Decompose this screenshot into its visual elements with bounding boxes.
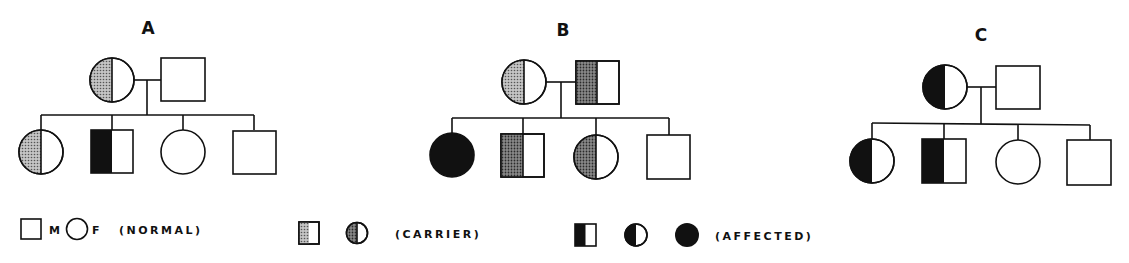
son-affected-symbol	[922, 139, 966, 183]
pedigree-title-a: A	[141, 18, 155, 38]
legend-normal-male-symbol	[21, 219, 41, 239]
daughter-carrier-symbol	[574, 135, 618, 179]
pedigree-diagram: A	[0, 0, 1129, 263]
legend: M F (NORMAL) (CARRIER) (AFFECTED)	[21, 219, 813, 248]
daughter-affected-symbol	[430, 133, 474, 177]
legend-female-label: F	[92, 224, 102, 237]
legend-affected-full-symbol	[675, 223, 699, 247]
legend-normal-female-symbol	[67, 219, 88, 240]
pedigree-c-lines	[872, 87, 1090, 140]
son-normal-symbol	[1067, 140, 1111, 185]
father-normal-symbol	[161, 58, 205, 101]
daughter-affected-symbol	[850, 139, 894, 183]
mother-carrier-symbol	[502, 60, 546, 104]
legend-male-label: M	[49, 224, 62, 237]
legend-affected-male-symbol	[575, 224, 596, 246]
pedigree-a-lines	[41, 80, 254, 130]
son-normal-symbol	[647, 135, 690, 179]
legend-carrier-male-symbol	[299, 222, 319, 244]
son-carrier-symbol	[501, 134, 544, 177]
pedigree-title-c: C	[975, 25, 987, 45]
son-normal-symbol	[233, 131, 276, 174]
daughter-carrier-symbol	[19, 130, 63, 174]
father-carrier-symbol	[576, 61, 619, 104]
pedigree-c: C	[850, 25, 1111, 185]
legend-affected-female-symbol	[625, 224, 647, 246]
pedigree-title-b: B	[557, 20, 570, 40]
son-affected-symbol	[91, 130, 133, 173]
legend-affected-text: (AFFECTED)	[715, 230, 813, 243]
legend-carrier-text: (CARRIER)	[395, 228, 481, 241]
pedigree-b: B	[430, 20, 690, 179]
pedigree-a: A	[19, 18, 276, 174]
legend-carrier-female-symbol	[347, 223, 368, 244]
pedigree-b-lines	[452, 82, 669, 135]
mother-carrier-symbol	[90, 58, 134, 102]
legend-normal-text: (NORMAL)	[119, 224, 203, 237]
daughter-normal-symbol	[996, 140, 1040, 184]
daughter-normal-symbol	[161, 130, 205, 174]
father-normal-symbol	[996, 66, 1040, 109]
mother-affected-symbol	[923, 65, 967, 109]
